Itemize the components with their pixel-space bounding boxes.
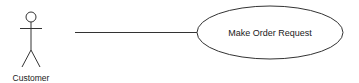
stick-figure-icon: [20, 12, 42, 67]
actor-label: Customer: [13, 73, 50, 83]
use-case-diagram: Customer Make Order Request: [0, 0, 359, 83]
use-case-label: Make Order Request: [228, 28, 312, 38]
actor-customer[interactable]: Customer: [13, 12, 50, 83]
use-case-make-order-request[interactable]: Make Order Request: [197, 6, 343, 59]
